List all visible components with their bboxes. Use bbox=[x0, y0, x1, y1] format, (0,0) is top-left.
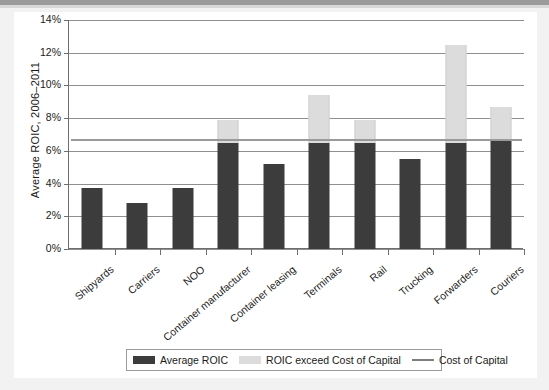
legend-label-roic-exceed-cost-of-capital: ROIC exceed Cost of Capital bbox=[266, 354, 401, 366]
bar-segment-average-roic[interactable] bbox=[309, 143, 330, 249]
x-axis-tick-mark bbox=[251, 249, 252, 255]
x-axis-category-label: Rail bbox=[367, 263, 389, 284]
bar-stack[interactable] bbox=[172, 188, 193, 249]
x-axis-tick-mark bbox=[115, 249, 116, 255]
bar-stack[interactable] bbox=[81, 188, 102, 249]
x-axis-tick-mark bbox=[342, 249, 343, 255]
legend-item-average-roic: Average ROIC bbox=[133, 354, 228, 366]
bar-segment-average-roic[interactable] bbox=[445, 143, 466, 249]
legend-label-cost-of-capital: Cost of Capital bbox=[439, 354, 508, 366]
legend-swatch-cost-of-capital bbox=[412, 356, 434, 364]
x-axis-category-label: Trucking bbox=[396, 263, 434, 298]
bar-segment-average-roic[interactable] bbox=[81, 188, 102, 249]
chart-card: Average ROIC, 2006–2011 0%2%4%6%8%10%12%… bbox=[14, 12, 537, 378]
x-axis-labels-layer: ShipyardsCarriersNOOContainer manufactur… bbox=[68, 20, 523, 150]
page-top-band-secondary bbox=[0, 5, 549, 8]
x-axis-category-label: NOO bbox=[181, 263, 207, 288]
x-axis-tick-mark bbox=[479, 249, 480, 255]
y-axis-tick-label: 0% bbox=[17, 242, 61, 254]
y-axis-tick-label: 8% bbox=[17, 111, 61, 123]
legend-swatch-average-roic bbox=[133, 356, 155, 364]
x-axis-category-label: Container manufacturer bbox=[160, 263, 252, 343]
bar-stack[interactable] bbox=[400, 159, 421, 249]
bar-segment-average-roic[interactable] bbox=[400, 159, 421, 249]
bar-stack[interactable] bbox=[127, 203, 148, 249]
y-axis-tick-label: 14% bbox=[17, 13, 61, 25]
x-axis-category-label: Couriers bbox=[487, 263, 525, 298]
bar-segment-average-roic[interactable] bbox=[172, 188, 193, 249]
y-axis-label: Average ROIC, 2006–2011 bbox=[29, 45, 41, 215]
bar-segment-average-roic[interactable] bbox=[491, 141, 512, 249]
legend-item-roic-exceed-cost-of-capital: ROIC exceed Cost of Capital bbox=[239, 354, 401, 366]
x-axis-tick-mark bbox=[433, 249, 434, 255]
x-axis-tick-mark bbox=[524, 249, 525, 255]
legend-label-average-roic: Average ROIC bbox=[160, 354, 228, 366]
bar-segment-average-roic[interactable] bbox=[263, 164, 284, 249]
x-axis-tick-mark bbox=[388, 249, 389, 255]
figure-container: Average ROIC, 2006–2011 0%2%4%6%8%10%12%… bbox=[0, 0, 549, 390]
plot-wrapper: Average ROIC, 2006–2011 0%2%4%6%8%10%12%… bbox=[14, 12, 537, 378]
cost-of-capital-line bbox=[71, 139, 522, 141]
legend-item-cost-of-capital: Cost of Capital bbox=[412, 354, 508, 366]
bar-stack[interactable] bbox=[263, 164, 284, 249]
legend-swatch-roic-exceed-cost-of-capital bbox=[239, 356, 261, 364]
y-axis-tick-label: 10% bbox=[17, 78, 61, 90]
bar-segment-average-roic[interactable] bbox=[354, 143, 375, 249]
x-axis-category-label: Carriers bbox=[125, 263, 161, 296]
y-axis-tick-label: 4% bbox=[17, 177, 61, 189]
chart-legend: Average ROIC ROIC exceed Cost of Capital… bbox=[126, 349, 442, 371]
y-axis-tick-label: 12% bbox=[17, 46, 61, 58]
y-axis-tick-label: 2% bbox=[17, 209, 61, 221]
x-axis-tick-mark bbox=[297, 249, 298, 255]
x-axis-category-label: Shipyards bbox=[72, 263, 115, 302]
bar-segment-average-roic[interactable] bbox=[218, 143, 239, 249]
bar-segment-average-roic[interactable] bbox=[127, 203, 148, 249]
x-axis-tick-mark bbox=[160, 249, 161, 255]
x-axis-category-label: Terminals bbox=[301, 263, 343, 301]
y-axis-tick-label: 6% bbox=[17, 144, 61, 156]
x-axis-category-label: Forwarders bbox=[431, 263, 479, 306]
y-axis-tick-mark bbox=[64, 249, 69, 250]
x-axis-tick-mark bbox=[206, 249, 207, 255]
